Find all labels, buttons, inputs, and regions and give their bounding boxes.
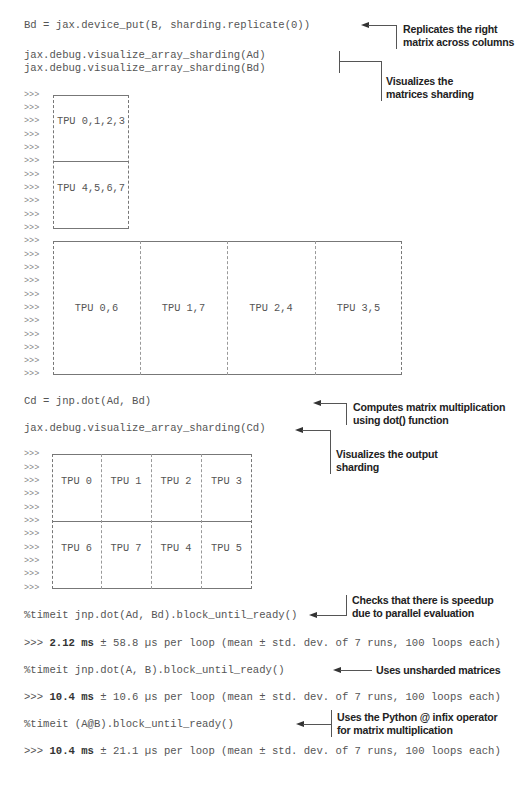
shard-cell: TPU 3 (201, 475, 252, 488)
prompt: >>> (24, 568, 39, 581)
shard-cell: TPU 1 (101, 475, 151, 488)
callout-line (346, 403, 347, 425)
prompt: >>> (24, 515, 39, 528)
annotation-text: Checks that there is speedup (352, 594, 494, 607)
callout-line (368, 25, 396, 26)
timeit-result-infix: >>> 10.4 ms ± 21.1 µs per loop (mean ± s… (24, 745, 501, 758)
prompt: >>> (24, 315, 39, 328)
prompt: >>> (24, 289, 39, 302)
prompt: >>> (24, 448, 39, 461)
callout-line (330, 430, 331, 474)
prompt: >>> (24, 475, 39, 488)
timing-value: 2.12 ms (49, 637, 94, 649)
callout-line (331, 710, 332, 737)
timing-detail: ± 10.6 µs per loop (mean ± std. dev. of … (94, 691, 501, 703)
code-line-device-put: Bd = jax.device_put(B, sharding.replicat… (24, 19, 310, 32)
shard-cell: TPU 0,6 (53, 302, 140, 315)
callout-line (339, 61, 381, 62)
prompt: >>> (24, 235, 39, 248)
shard-divider (53, 161, 129, 162)
annotation-text: due to parallel evaluation (352, 607, 474, 620)
shard-cell: TPU 6 (52, 542, 101, 555)
prompt: >>> (24, 582, 39, 595)
prompt: >>> (24, 462, 39, 475)
callout-line (302, 430, 330, 431)
shard-cell: TPU 4 (151, 542, 201, 555)
prompt: >>> (24, 169, 39, 182)
timing-detail: ± 58.8 µs per loop (mean ± std. dev. of … (94, 637, 501, 649)
shard-cell: TPU 4,5,6,7 (53, 182, 129, 195)
annotation-text: Computes matrix multiplication (353, 401, 505, 414)
callout-line (316, 615, 346, 616)
prompt: >>> (24, 691, 49, 703)
timing-value: 10.4 ms (49, 745, 94, 757)
shard-cell: TPU 7 (101, 542, 151, 555)
callout-line (381, 61, 382, 101)
shard-cell: TPU 5 (201, 542, 252, 555)
prompt: >>> (24, 488, 39, 501)
timeit-result-sharded: >>> 2.12 ms ± 58.8 µs per loop (mean ± s… (24, 637, 501, 650)
shard-cell: TPU 0,1,2,3 (53, 115, 129, 128)
shard-cell: TPU 3,5 (315, 302, 402, 315)
annotation-text: Replicates the right (403, 23, 497, 36)
callout-line (303, 724, 331, 725)
prompt: >>> (24, 502, 39, 515)
prompt: >>> (24, 115, 39, 128)
timing-detail: ± 21.1 µs per loop (mean ± std. dev. of … (94, 745, 501, 757)
prompt: >>> (24, 302, 39, 315)
callout-line (396, 25, 397, 49)
prompt: >>> (24, 637, 49, 649)
annotation-text: matrix across columns (403, 36, 514, 49)
prompt: >>> (24, 142, 39, 155)
prompt: >>> (24, 528, 39, 541)
code-line-timeit-unsharded: %timeit jnp.dot(A, B).block_until_ready(… (24, 664, 285, 677)
shard-divider (52, 521, 252, 522)
code-line-timeit-infix: %timeit (A@B).block_until_ready() (24, 718, 234, 731)
shard-cell: TPU 1,7 (140, 302, 227, 315)
code-line-dot: Cd = jnp.dot(Ad, Bd) (24, 395, 151, 408)
code-line-visualize-bd: jax.debug.visualize_array_sharding(Bd) (24, 62, 266, 75)
callout-line (320, 403, 346, 404)
prompt: >>> (24, 102, 39, 115)
annotation-text: Visualizes the output (336, 448, 438, 461)
prompt: >>> (24, 182, 39, 195)
code-line-visualize-cd: jax.debug.visualize_array_sharding(Cd) (24, 422, 266, 435)
annotation-text: matrices sharding (386, 88, 474, 101)
callout-line (346, 595, 347, 616)
callout-line (339, 51, 340, 73)
prompt: >>> (24, 262, 39, 275)
prompt: >>> (24, 275, 39, 288)
prompt: >>> (24, 368, 39, 381)
prompt: >>> (24, 222, 39, 235)
prompt: >>> (24, 249, 39, 262)
prompt: >>> (24, 329, 39, 342)
annotation-text: Uses unsharded matrices (376, 664, 500, 677)
prompt: >>> (24, 555, 39, 568)
annotation-text: sharding (336, 461, 379, 474)
shard-cell: TPU 2,4 (227, 302, 315, 315)
prompt: >>> (24, 342, 39, 355)
timing-value: 10.4 ms (49, 691, 94, 703)
prompt: >>> (24, 355, 39, 368)
prompt: >>> (24, 129, 39, 142)
prompt: >>> (24, 745, 49, 757)
shard-cell: TPU 2 (151, 475, 201, 488)
prompt: >>> (24, 209, 39, 222)
annotation-text: Uses the Python @ infix operator (337, 711, 498, 724)
annotation-text: Visualizes the (386, 75, 453, 88)
code-line-timeit-sharded: %timeit jnp.dot(Ad, Bd).block_until_read… (24, 609, 297, 622)
code-line-visualize-ad: jax.debug.visualize_array_sharding(Ad) (24, 49, 266, 62)
prompt: >>> (24, 89, 39, 102)
prompt: >>> (24, 542, 39, 555)
annotation-text: for matrix multiplication (337, 724, 453, 737)
annotation-text: using dot() function (353, 414, 448, 427)
shard-cell: TPU 0 (52, 475, 101, 488)
prompt: >>> (24, 195, 39, 208)
prompt: >>> (24, 155, 39, 168)
callout-line (340, 670, 372, 671)
timeit-result-unsharded: >>> 10.4 ms ± 10.6 µs per loop (mean ± s… (24, 691, 501, 704)
